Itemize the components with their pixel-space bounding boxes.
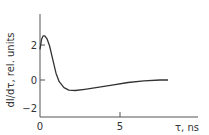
x-tick-label: 0 (37, 121, 43, 132)
x-axis-label: τ, ns (175, 122, 199, 133)
x-tick-label: 5 (117, 121, 123, 132)
y-tick-label: 0 (31, 75, 37, 86)
y-axis-label: dI/dτ, rel. units (5, 32, 16, 107)
y-tick-label: −2 (22, 103, 37, 114)
y-tick-label: 2 (31, 40, 37, 51)
chart: 0520−2 τ, ns dI/dτ, rel. units (0, 0, 209, 135)
series-line (40, 36, 168, 91)
